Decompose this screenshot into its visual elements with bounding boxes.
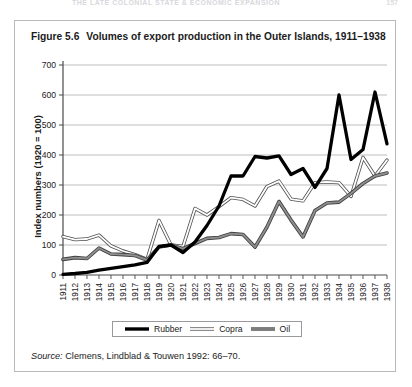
figure-caption-number: Figure 5.6 <box>31 31 79 42</box>
x-axis-tick-label: 1925 <box>227 283 236 302</box>
series-line-copra-outline <box>63 157 387 259</box>
legend-item-oil: Oil <box>250 324 291 334</box>
x-axis-tick-label: 1917 <box>131 283 140 302</box>
x-axis-tick-label: 1926 <box>239 283 248 302</box>
y-axis-tick-label: 200 <box>42 210 57 220</box>
x-axis-tick-label: 1936 <box>359 283 368 302</box>
figure-container: Figure 5.6Volumes of export production i… <box>14 20 396 372</box>
x-axis-tick-label: 1923 <box>203 283 212 302</box>
legend-item-copra: Copra <box>189 324 242 334</box>
figure-caption: Figure 5.6Volumes of export production i… <box>31 31 386 42</box>
chart-plot-area: Index numbers (1920 = 100) 0100200300400… <box>15 51 395 321</box>
y-axis-tick-label: 0 <box>51 270 56 280</box>
x-axis-tick-label: 1918 <box>143 283 152 302</box>
chart-legend: Rubber Copra Oil <box>112 321 302 337</box>
x-axis-tick-label: 1919 <box>155 283 164 302</box>
x-axis-tick-label: 1914 <box>95 283 104 302</box>
legend-swatch-oil <box>250 325 276 333</box>
running-head-text: THE LATE COLONIAL STATE & ECONOMIC EXPAN… <box>72 0 280 6</box>
x-axis-tick-label: 1922 <box>191 283 200 302</box>
y-axis-tick-label: 100 <box>42 240 57 250</box>
x-axis-tick-label: 1938 <box>383 283 392 302</box>
y-axis-tick-label: 500 <box>42 120 57 130</box>
x-axis-tick-label: 1921 <box>179 283 188 302</box>
x-axis-tick-label: 1924 <box>215 283 224 302</box>
line-chart-svg: 0100200300400500600700191119121913191419… <box>15 51 395 321</box>
series-line-copra <box>63 157 387 259</box>
page-running-header: THE LATE COLONIAL STATE & ECONOMIC EXPAN… <box>0 0 412 14</box>
x-axis-tick-label: 1935 <box>347 283 356 302</box>
legend-item-rubber: Rubber <box>124 324 182 334</box>
x-axis-tick-label: 1913 <box>83 283 92 302</box>
x-axis-tick-label: 1937 <box>371 283 380 302</box>
x-axis-tick-label: 1920 <box>167 283 176 302</box>
figure-caption-text: Volumes of export production in the Oute… <box>86 31 385 42</box>
y-axis-title: Index numbers (1920 = 100) <box>32 77 43 277</box>
x-axis-tick-label: 1932 <box>311 283 320 302</box>
page-folio-number: 157 <box>386 0 398 6</box>
x-axis-tick-label: 1912 <box>71 283 80 302</box>
legend-label-copra: Copra <box>219 324 242 334</box>
y-axis-tick-label: 300 <box>42 180 57 190</box>
figure-source-line: Source: Clemens, Lindblad & Touwen 1992:… <box>31 351 240 361</box>
x-axis-tick-label: 1931 <box>299 283 308 302</box>
x-axis-tick-label: 1915 <box>107 283 116 302</box>
legend-label-rubber: Rubber <box>154 324 182 334</box>
x-axis-tick-label: 1933 <box>323 283 332 302</box>
x-axis-tick-label: 1916 <box>119 283 128 302</box>
legend-label-oil: Oil <box>280 324 291 334</box>
x-axis-tick-label: 1927 <box>251 283 260 302</box>
legend-swatch-copra <box>189 325 215 333</box>
x-axis-tick-label: 1928 <box>263 283 272 302</box>
y-axis-tick-label: 600 <box>42 90 57 100</box>
x-axis-tick-label: 1911 <box>59 283 68 301</box>
x-axis-tick-label: 1930 <box>287 283 296 302</box>
source-prefix: Source: <box>31 351 63 361</box>
source-text: Clemens, Lindblad & Touwen 1992: 66–70. <box>65 351 240 361</box>
y-axis-tick-label: 400 <box>42 150 57 160</box>
x-axis-tick-label: 1934 <box>335 283 344 302</box>
legend-swatch-rubber <box>124 325 150 333</box>
y-axis-tick-label: 700 <box>42 60 57 70</box>
x-axis-tick-label: 1929 <box>275 283 284 302</box>
